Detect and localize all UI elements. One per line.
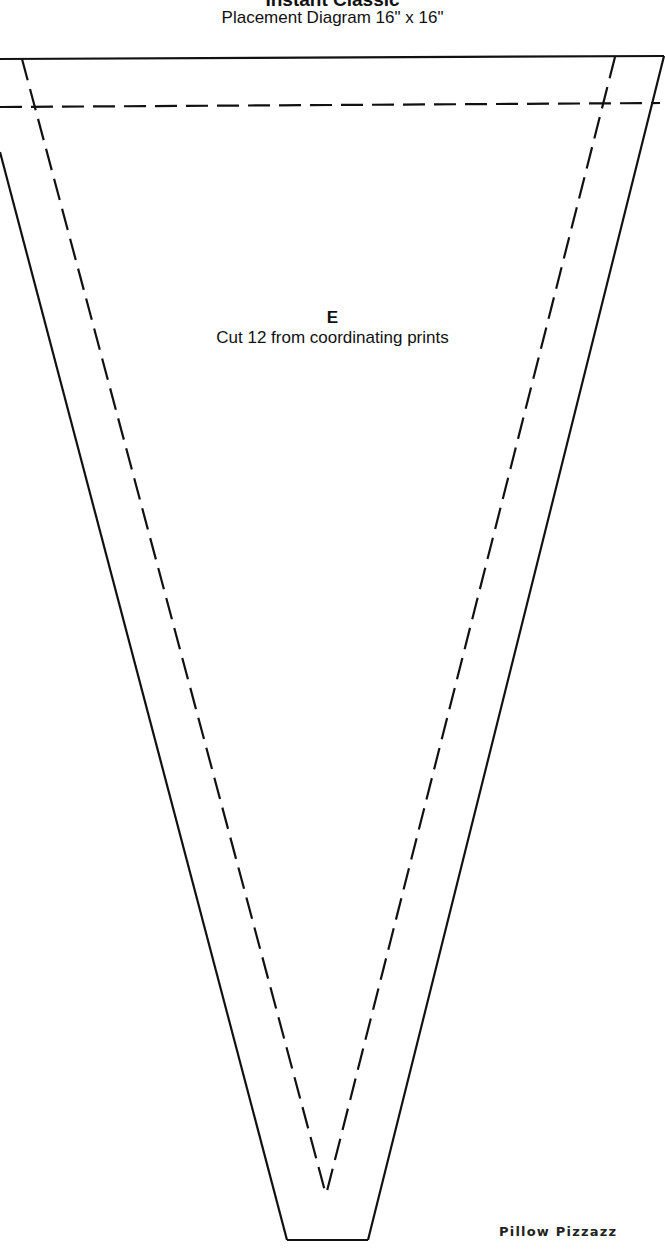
cut-line xyxy=(0,56,664,1240)
piece-letter: E xyxy=(0,308,665,328)
seam-line xyxy=(0,57,660,1195)
seam-line-top xyxy=(0,103,660,107)
seam-line-left xyxy=(22,59,326,1195)
cut-instruction: Cut 12 from coordinating prints xyxy=(0,328,665,348)
brand-label: Pillow Pizzazz xyxy=(499,1224,617,1239)
cut-line-right xyxy=(368,56,664,1240)
cut-line-top xyxy=(0,56,664,59)
seam-line-right xyxy=(326,57,615,1195)
pattern-piece-diagram xyxy=(0,0,665,1250)
